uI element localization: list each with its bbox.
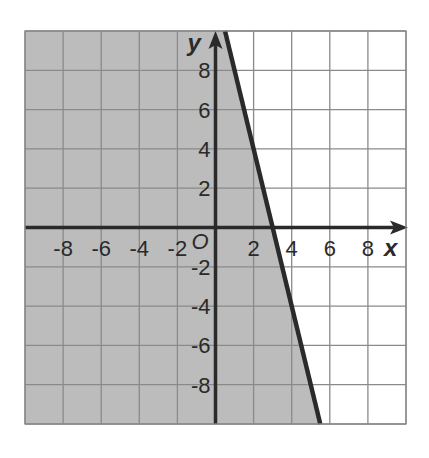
y-tick-label: -6 — [191, 333, 211, 358]
origin-label: O — [191, 229, 208, 254]
x-tick-label: 8 — [362, 236, 374, 261]
y-tick-label: 8 — [198, 58, 210, 83]
x-tick-label: -8 — [53, 236, 73, 261]
y-tick-label: 4 — [198, 137, 210, 162]
x-tick-label: -4 — [130, 236, 150, 261]
y-axis-label: y — [187, 29, 203, 56]
x-tick-label: 2 — [247, 236, 259, 261]
x-axis-label: x — [382, 234, 399, 261]
x-tick-label: -6 — [91, 236, 111, 261]
x-tick-label: 4 — [286, 236, 298, 261]
x-tick-label: -2 — [168, 236, 188, 261]
y-tick-label: -2 — [191, 255, 211, 280]
y-tick-label: -4 — [191, 294, 211, 319]
y-tick-label: -8 — [191, 373, 211, 398]
y-tick-label: 2 — [198, 176, 210, 201]
coordinate-plane: -8-6-4-224688642-2-4-6-8Oxy — [0, 0, 429, 458]
x-tick-label: 6 — [324, 236, 336, 261]
y-tick-label: 6 — [198, 98, 210, 123]
